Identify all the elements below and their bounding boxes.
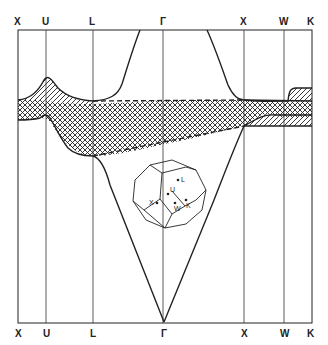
top-label-gamma: Γ — [160, 16, 166, 27]
plot-frame — [18, 30, 312, 323]
brillouin-zone-inset — [133, 160, 206, 228]
bottom-label-k: K — [307, 328, 315, 339]
bottom-label-x1: X — [15, 328, 22, 339]
band-curves — [18, 30, 312, 322]
bottom-label-x2: X — [241, 328, 248, 339]
bottom-axis-labels: X U L Γ X W K — [15, 328, 315, 339]
top-label-x1: X — [14, 16, 21, 27]
bottom-label-l: L — [90, 328, 96, 339]
band-structure-diagram: L U X W K X U L Γ X W K X U L Γ X W K — [0, 0, 328, 345]
bottom-label-w: W — [280, 328, 290, 339]
top-label-w: W — [279, 16, 289, 27]
bottom-label-u: U — [43, 328, 50, 339]
top-label-u: U — [42, 16, 49, 27]
top-label-x2: X — [240, 16, 247, 27]
bz-label-k: K — [186, 202, 191, 209]
symmetry-lines — [46, 30, 284, 323]
d-band-region — [18, 100, 312, 156]
bz-label-l: L — [181, 176, 185, 183]
bz-label-x: X — [149, 199, 154, 206]
top-label-l: L — [89, 16, 95, 27]
top-axis-labels: X U L Γ X W K — [14, 16, 315, 27]
bz-label-w: W — [174, 205, 181, 212]
bottom-label-gamma: Γ — [161, 328, 167, 339]
bz-label-u: U — [170, 186, 175, 193]
top-label-k: K — [307, 16, 315, 27]
